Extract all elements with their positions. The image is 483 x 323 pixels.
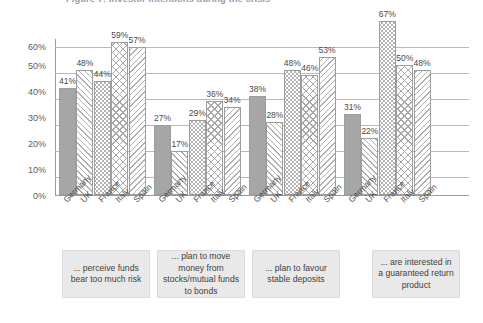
bar-value-label: 38% (249, 85, 266, 94)
bar-value-label: 48% (414, 59, 431, 68)
y-tick-2: 20% (0, 140, 46, 149)
bar-group-1: 27%17%29%36%34% (154, 39, 242, 195)
y-tick-6: 60% (0, 43, 46, 52)
caption-box-1: ... plan to move money from stocks/mutua… (157, 250, 245, 298)
bar-value-label: 46% (301, 64, 318, 73)
chart-title: Figure 7: Investor intentions during the… (66, 0, 366, 5)
bar-group-3: 31%22%67%50%48% (344, 39, 432, 195)
bar-value-label: 41% (59, 77, 76, 86)
bar-value-label: 44% (94, 70, 111, 79)
bar-france-2: 48% (284, 70, 301, 195)
bar-italy-2: 46% (301, 75, 318, 195)
bar-value-label: 48% (76, 59, 93, 68)
bar-value-label: 17% (171, 140, 188, 149)
bar-value-label: 67% (379, 10, 396, 19)
bar-germany-0: 41% (59, 88, 76, 195)
y-tick-5: 50% (0, 62, 46, 71)
bar-value-label: 36% (206, 90, 223, 99)
y-tick-0: 0% (0, 192, 46, 201)
bar-value-label: 28% (266, 111, 283, 120)
bar-value-label: 29% (189, 109, 206, 118)
bar-value-label: 59% (111, 31, 128, 40)
bar-group-2: 38%28%48%46%53% (249, 39, 337, 195)
bar-spain-3: 48% (414, 70, 431, 195)
bar-value-label: 50% (396, 54, 413, 63)
bar-germany-2: 38% (249, 96, 266, 195)
caption-box-0: ... perceive funds bear too much risk (62, 250, 150, 298)
y-tick-3: 30% (0, 114, 46, 123)
bar-france-0: 44% (94, 81, 111, 195)
bar-value-label: 22% (361, 127, 378, 136)
bar-value-label: 57% (129, 36, 146, 45)
bar-italy-3: 50% (396, 65, 413, 195)
caption-box-2: ... plan to favour stable deposits (252, 250, 340, 298)
bar-france-3: 67% (379, 21, 396, 195)
bar-value-label: 31% (344, 103, 361, 112)
bar-chart: Figure 7: Investor intentions during the… (0, 0, 483, 323)
bar-value-label: 48% (284, 59, 301, 68)
bar-italy-0: 59% (111, 42, 128, 195)
bar-spain-1: 34% (224, 107, 241, 195)
bar-value-label: 27% (154, 114, 171, 123)
caption-box-3: ... are interested in a guaranteed retur… (372, 250, 460, 298)
bar-germany-3: 31% (344, 114, 361, 195)
bar-group-0: 41%48%44%59%57% (59, 39, 147, 195)
plot-area: 41%48%44%59%57% 27%17%29%36%34% 38%28%48… (55, 39, 469, 195)
bar-spain-0: 57% (129, 47, 146, 195)
y-tick-4: 40% (0, 88, 46, 97)
y-tick-1: 10% (0, 166, 46, 175)
bar-value-label: 53% (319, 46, 336, 55)
bar-spain-2: 53% (319, 57, 336, 195)
bar-value-label: 34% (224, 96, 241, 105)
